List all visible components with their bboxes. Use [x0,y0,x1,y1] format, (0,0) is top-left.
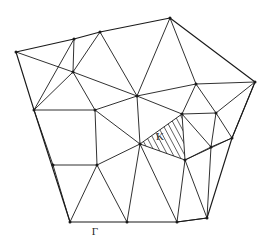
mesh-node [169,17,172,20]
boundary-edge [100,18,170,32]
mesh-edge [182,113,216,114]
hatch-line [92,24,185,199]
mesh-node [176,221,179,224]
mesh-node [195,83,198,86]
hatch-line [39,52,132,227]
mesh-node [33,109,36,112]
mesh-edge [97,165,127,222]
mesh-node [126,221,129,224]
hatch-line [26,59,119,234]
mesh-edge [34,72,73,110]
hatch-line [97,22,190,197]
mesh-interior-edges [16,18,255,222]
hatch-line [66,38,159,213]
hatch-line [79,31,172,206]
mesh-edge [211,113,216,147]
hatch-line [167,0,260,159]
mesh-node [215,112,218,115]
mesh-edge [137,18,170,96]
hatch-line [22,62,115,237]
mesh-node [15,51,18,54]
mesh-node [206,217,209,220]
mesh-diagram-svg: K Γ [0,0,269,245]
mesh-node [231,137,234,140]
mesh-edge [73,72,137,96]
hatch-line [57,43,150,218]
mesh-node [72,71,75,74]
mesh-node [69,221,72,224]
boundary-edge [232,82,255,138]
mesh-edge [140,144,177,222]
mesh-node [181,113,184,116]
hatch-line [62,41,155,216]
mesh-edge [95,96,137,110]
hatch-line [9,69,102,244]
mesh-node [73,38,76,41]
element-label-K: K [156,130,164,142]
mesh-edge [216,113,232,138]
hatch-line [101,19,194,194]
hatch-line [44,50,137,225]
mesh-edge [137,96,182,114]
mesh-node [94,109,97,112]
hatch-line [13,66,106,241]
hatch-line [70,36,163,211]
hatch-line [84,29,177,204]
boundary-edge [16,52,34,110]
boundary-edge [16,39,74,52]
mesh-edge [185,160,207,218]
mesh-node [99,31,102,34]
mesh-edge [182,84,196,114]
mesh-figure: K Γ [0,0,269,245]
hatch-line [35,55,128,230]
hatch-line [141,0,234,173]
mesh-edge [137,84,196,96]
boundary-label-gamma: Γ [92,225,98,237]
mesh-edge [70,165,97,222]
mesh-edge [73,39,74,72]
mesh-edge [73,72,95,110]
hatch-line [110,15,203,190]
mesh-node [96,164,99,167]
mesh-edge [137,96,140,144]
mesh-edge [16,52,73,72]
mesh-node [52,164,55,167]
hatched-element-K [4,0,269,245]
mesh-edge [100,32,137,96]
mesh-edge [97,144,140,165]
mesh-node [139,143,142,146]
mesh-edge [182,114,211,147]
mesh-edge [196,84,216,113]
mesh-edge [127,144,140,222]
mesh-node [254,81,257,84]
mesh-node [210,146,213,149]
mesh-edge [34,39,74,110]
boundary-edge [177,218,207,222]
mesh-edge [177,160,185,222]
mesh-edge [196,82,255,84]
hatch-line [145,0,238,171]
mesh-edge [185,138,232,160]
mesh-node [136,95,139,98]
mesh-boundary-edges [16,18,255,222]
mesh-node [184,159,187,162]
hatch-line [163,0,256,161]
hatch-line [176,0,269,154]
mesh-edge [95,110,97,165]
hatch-line [137,1,230,176]
mesh-edge [95,110,140,144]
hatch-line [128,5,221,180]
